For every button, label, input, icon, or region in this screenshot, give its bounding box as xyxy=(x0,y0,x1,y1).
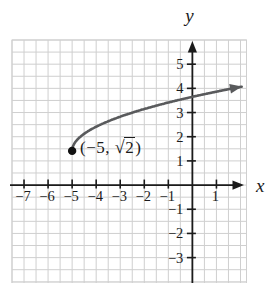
x-tick-label: 1 xyxy=(212,188,219,204)
radicand: 2 xyxy=(124,137,135,157)
x-tick-label: −3 xyxy=(112,188,127,204)
x-tick-label: −2 xyxy=(136,188,151,204)
y-axis-label: y xyxy=(183,5,194,26)
start-point-dot xyxy=(68,147,76,155)
y-tick-label: −3 xyxy=(168,250,183,266)
x-tick-label: −4 xyxy=(87,188,103,204)
y-tick-label: 3 xyxy=(176,105,183,121)
annotation-prefix: (−5, xyxy=(80,138,115,157)
y-tick-label: 4 xyxy=(176,80,184,96)
y-tick-label: 1 xyxy=(176,153,183,169)
x-axis-label: x xyxy=(255,175,265,196)
x-tick-label: −5 xyxy=(63,188,78,204)
y-tick-label: 2 xyxy=(176,129,183,145)
y-tick-label: 5 xyxy=(176,56,183,72)
point-annotation: (−5, √2) xyxy=(80,137,141,158)
coordinate-plane-figure: −7−6−5−4−3−2−1154321−1−2−3yx (−5, √2) xyxy=(0,0,268,283)
x-tick-label: −6 xyxy=(39,188,54,204)
y-tick-label: −1 xyxy=(168,201,183,217)
x-tick-label: −7 xyxy=(15,188,30,204)
y-tick-label: −2 xyxy=(168,225,183,241)
annotation-suffix: ) xyxy=(135,138,141,157)
